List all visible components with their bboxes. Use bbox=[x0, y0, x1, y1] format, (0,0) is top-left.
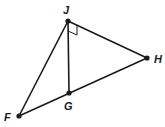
label-g: G bbox=[64, 100, 73, 112]
right-angle-mark bbox=[68, 25, 77, 35]
label-j: J bbox=[63, 4, 70, 16]
label-f: F bbox=[4, 111, 11, 123]
point-g bbox=[66, 90, 71, 95]
segment-jf bbox=[19, 21, 68, 116]
segment-jh bbox=[68, 21, 147, 58]
point-h bbox=[144, 55, 149, 60]
geometry-diagram: J H G F bbox=[0, 0, 165, 127]
point-j bbox=[65, 18, 70, 23]
label-h: H bbox=[154, 53, 163, 65]
segment-fh bbox=[19, 58, 147, 116]
point-f bbox=[16, 113, 21, 118]
